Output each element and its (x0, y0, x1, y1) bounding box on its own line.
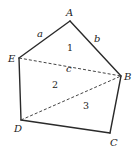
pentagon-diagram: A B C D E a b c 1 2 3 (0, 0, 140, 154)
edge-label-c: c (66, 63, 72, 74)
region-label-3: 3 (83, 100, 89, 111)
edge-cd (21, 120, 110, 133)
diagonal-db (21, 76, 121, 120)
edge-label-a: a (37, 28, 43, 39)
vertex-label-c: C (110, 137, 118, 148)
vertex-label-a: A (65, 7, 73, 18)
edge-ea (19, 21, 70, 58)
vertex-label-b: B (123, 71, 131, 82)
edge-de (19, 58, 21, 120)
region-label-1: 1 (67, 42, 73, 53)
region-label-2: 2 (52, 79, 58, 90)
edge-ab (70, 21, 121, 76)
edge-bc (110, 76, 121, 133)
edge-label-b: b (94, 33, 100, 44)
vertex-label-e: E (7, 53, 16, 64)
vertex-label-d: D (13, 123, 22, 134)
